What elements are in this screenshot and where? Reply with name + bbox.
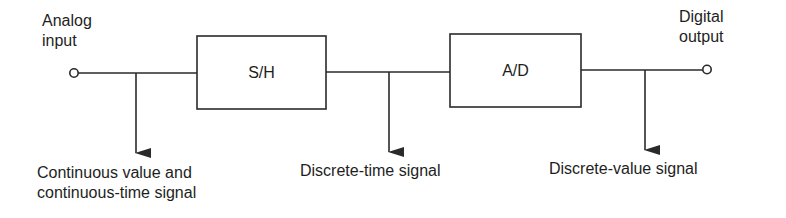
- analog-to-digital-label: A/D: [502, 62, 529, 79]
- continuous-signal-label-line1: Continuous value and: [37, 163, 196, 183]
- sample-hold-label: S/H: [248, 64, 275, 81]
- discrete-value-signal-label: Discrete-value signal: [549, 159, 698, 179]
- output-label: Digital output: [679, 7, 723, 47]
- discrete-time-signal-label: Discrete-time signal: [300, 161, 440, 181]
- discrete-time-signal-label-line1: Discrete-time signal: [300, 161, 440, 181]
- output-label-line1: Digital: [679, 7, 723, 27]
- continuous-signal-label: Continuous value and continuous-time sig…: [37, 163, 196, 203]
- adc-block-diagram: S/H A/D Analog input Digital output Cont…: [0, 0, 786, 218]
- output-label-line2: output: [679, 27, 723, 47]
- input-label-line1: Analog: [42, 11, 92, 31]
- input-label-line2: input: [42, 31, 92, 51]
- output-terminal-icon: [703, 65, 711, 73]
- input-label: Analog input: [42, 11, 92, 51]
- discrete-value-signal-label-line1: Discrete-value signal: [549, 159, 698, 179]
- continuous-signal-label-line2: continuous-time signal: [37, 183, 196, 203]
- input-terminal-icon: [70, 69, 78, 77]
